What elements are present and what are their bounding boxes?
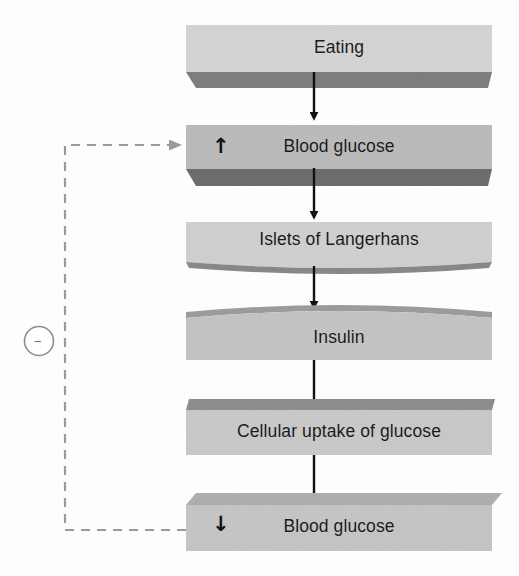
node-eating-front-face xyxy=(186,72,492,88)
node-blood-glucose-low-label: Blood glucose xyxy=(186,516,492,537)
feedback-loop-path xyxy=(65,145,186,530)
flowchart-diagram: Eating ↑ Blood glucose Islets of Langerh… xyxy=(0,0,519,576)
minus-sign-glyph: − xyxy=(34,334,42,349)
node-blood-glucose-high-label: Blood glucose xyxy=(186,136,492,157)
node-blood-glucose-high-front-face xyxy=(186,169,492,186)
diagram-canvas xyxy=(0,0,519,576)
node-cellular-uptake-label: Cellular uptake of glucose xyxy=(186,421,492,442)
node-cellular-uptake-cap-face xyxy=(186,399,495,410)
node-insulin-label: Insulin xyxy=(186,327,492,348)
node-blood-glucose-low-cap-face xyxy=(186,493,502,505)
node-eating-label: Eating xyxy=(186,37,492,58)
node-islets-of-langerhans-label: Islets of Langerhans xyxy=(186,229,492,250)
